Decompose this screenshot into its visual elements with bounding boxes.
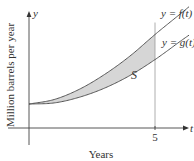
x-axis-arrow-icon	[183, 126, 189, 131]
y-axis-symbol: y	[32, 7, 38, 19]
x-axis-label: Years	[89, 148, 114, 160]
y-axis-label: Million barrels per year	[4, 23, 16, 127]
chart-svg: t y 5 Years Million barrels per year y =…	[0, 0, 194, 161]
x-axis-symbol: t	[190, 122, 194, 134]
chart-figure: t y 5 Years Million barrels per year y =…	[0, 0, 194, 161]
region-label-s: S	[131, 68, 137, 82]
legend-label-g: y = g(t)	[161, 36, 194, 49]
y-axis-arrow-icon	[27, 11, 32, 17]
x-tick-label-5: 5	[152, 131, 158, 143]
legend-label-f: y = f(t)	[160, 7, 193, 20]
curve-f	[29, 7, 189, 104]
